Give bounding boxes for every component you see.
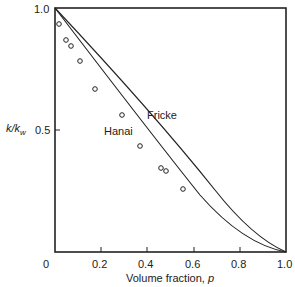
y-tick-label-0.5: 0.5 (35, 124, 50, 136)
x-tick-label-0.6: 0.6 (185, 258, 200, 270)
x-tick-label-0.4: 0.4 (138, 258, 153, 270)
experimental-points (57, 22, 186, 192)
fricke-curve (55, 8, 286, 252)
x-origin-label: 0 (43, 258, 49, 270)
x-tick-label-1.0: 1.0 (277, 258, 292, 270)
fricke-label: Fricke (147, 109, 177, 121)
x-axis-label-main: Volume fraction, (126, 272, 208, 284)
x-axis-label-var: p (208, 272, 214, 284)
x-tick-label-0.2: 0.2 (92, 258, 107, 270)
x-axis-label: Volume fraction, p (126, 272, 214, 284)
y-axis-label-main: k/k (6, 122, 20, 134)
chart-plot (0, 0, 295, 287)
y-axis-label-sub: w (20, 128, 26, 137)
hanai-label: Hanai (104, 125, 133, 137)
y-tick-label-1.0: 1.0 (34, 3, 49, 15)
x-tick-label-0.8: 0.8 (231, 258, 246, 270)
y-axis-label: k/kw (6, 122, 26, 137)
